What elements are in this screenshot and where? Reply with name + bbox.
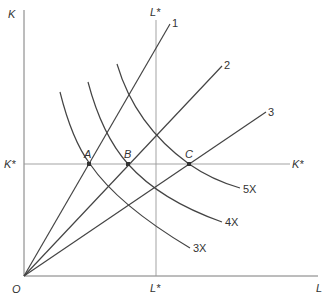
k-star-label-left: K* bbox=[4, 158, 16, 170]
isoquant-4x bbox=[88, 82, 222, 222]
ray-3-label: 3 bbox=[268, 106, 274, 118]
l-axis-label: L bbox=[316, 282, 322, 294]
ray-3 bbox=[24, 112, 266, 276]
point-b-label: B bbox=[124, 148, 131, 160]
point-a-label: A bbox=[83, 148, 91, 160]
point-b bbox=[126, 162, 130, 166]
ray-1 bbox=[24, 24, 170, 276]
point-c-label: C bbox=[185, 148, 193, 160]
point-a bbox=[87, 162, 91, 166]
isoquant-4x-label: 4X bbox=[225, 216, 239, 228]
isoquant-3x bbox=[60, 92, 190, 248]
isoquant-5x-label: 5X bbox=[243, 183, 257, 195]
l-star-label-top: L* bbox=[150, 6, 161, 18]
isoquant-diagram: K L O K* K* L* L* 1 2 3 3X 4X 5X A B C bbox=[0, 0, 333, 298]
k-star-label-right: K* bbox=[292, 158, 304, 170]
ray-1-label: 1 bbox=[172, 17, 178, 29]
point-c bbox=[187, 162, 191, 166]
isoquant-3x-label: 3X bbox=[193, 242, 207, 254]
k-axis-label: K bbox=[8, 8, 16, 20]
origin-label: O bbox=[12, 283, 21, 295]
l-star-label-bottom: L* bbox=[150, 282, 161, 294]
ray-2-label: 2 bbox=[224, 59, 230, 71]
